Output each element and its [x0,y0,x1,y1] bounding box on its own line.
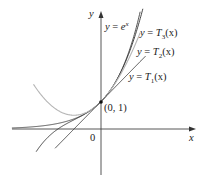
x-axis-arrow-icon [189,127,196,132]
y-axis-arrow-icon [99,11,104,18]
origin-label: 0 [90,132,95,143]
label-t2: y = T2(x) [136,46,175,60]
taylor-polynomial-graph: y x 0 (0, 1) y = ex y = T3(x) y = T2(x) … [0,0,207,178]
svg-text:y = ex: y = ex [104,20,130,32]
label-t3: y = T3(x) [139,27,178,41]
label-t1: y = T1(x) [128,71,167,85]
x-axis-label: x [188,132,194,143]
point-label: (0, 1) [104,102,127,114]
point-0-1 [99,100,103,104]
label-exp: y = ex [104,20,130,32]
curve-t3 [36,9,143,152]
svg-text:y = T1(x): y = T1(x) [128,71,167,85]
svg-text:y = T2(x): y = T2(x) [136,46,175,60]
svg-text:y = T3(x): y = T3(x) [139,27,178,41]
y-axis-label: y [88,8,94,19]
